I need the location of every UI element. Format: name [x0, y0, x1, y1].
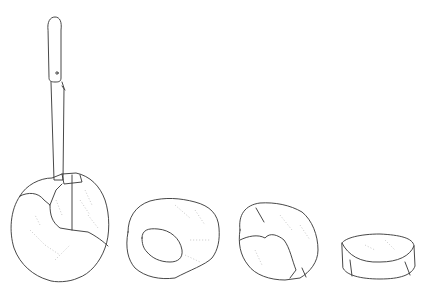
- cabbage-slice-icon: [342, 234, 415, 279]
- cabbage-quarter-icon: [239, 203, 318, 280]
- cabbage-illustration: [0, 0, 423, 293]
- cabbage-half-icon: [127, 198, 219, 278]
- cabbage-whole-icon: [11, 173, 109, 282]
- knife-icon: [48, 17, 65, 180]
